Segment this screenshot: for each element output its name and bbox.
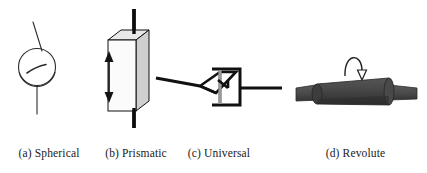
caption-spherical: (a) Spherical	[0, 147, 98, 159]
panel-revolute: (d) Revolute	[284, 0, 427, 173]
revolute-rotation-arrow	[345, 58, 367, 80]
universal-left-yoke-edge	[200, 86, 216, 93]
prismatic-block-side-face	[136, 30, 149, 111]
spherical-joint-diagram	[0, 0, 98, 140]
revolute-rotation-arrowhead	[358, 70, 367, 80]
caption-universal: (c) Universal	[154, 147, 284, 159]
spherical-socket-arc	[19, 73, 55, 87]
universal-joint-diagram	[154, 0, 284, 140]
prismatic-block-front-face	[108, 40, 136, 111]
universal-left-shaft	[156, 78, 200, 86]
panel-spherical: (a) Spherical	[0, 0, 98, 173]
joint-types-figure: (a) Spherical	[0, 0, 427, 173]
panel-universal: (c) Universal	[154, 0, 284, 173]
spherical-upper-link	[33, 22, 42, 51]
revolute-joint-diagram	[284, 0, 427, 140]
spherical-highlight-arc	[27, 65, 46, 74]
caption-revolute: (d) Revolute	[284, 147, 427, 159]
universal-left-yoke	[200, 72, 236, 93]
